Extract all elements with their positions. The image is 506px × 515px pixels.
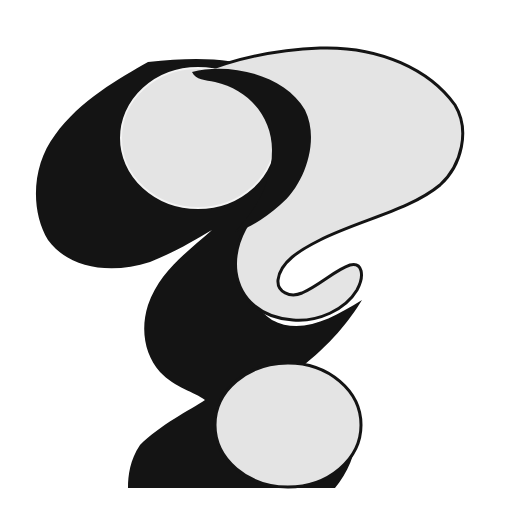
- bottom-circle: [215, 363, 361, 487]
- question-mark-icon: [0, 0, 506, 515]
